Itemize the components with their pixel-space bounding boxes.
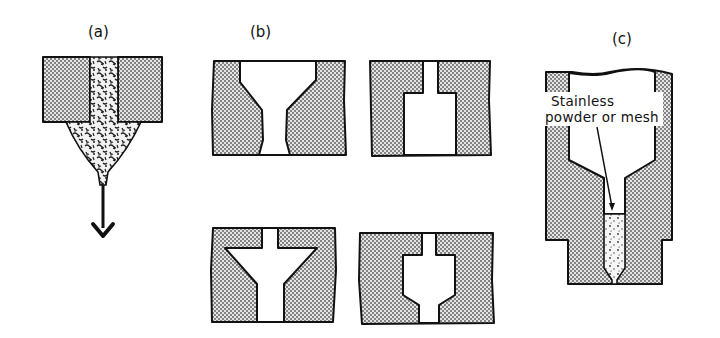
panel-b-label: (b) (250, 23, 271, 41)
panel-c-filter-insert (604, 214, 625, 284)
panel-a-left-wall (43, 57, 90, 122)
panel-b-nozzle-stepped-taper (359, 233, 494, 324)
annotation-line-2: powder or mesh (545, 109, 659, 125)
nozzle-diagram: (a) (b) (c) (0, 0, 720, 338)
panel-b-nozzle-converging (212, 61, 346, 155)
panel-a: (a) (43, 23, 162, 236)
panel-a-label: (a) (88, 23, 109, 41)
panel-b-nozzle-stepped (370, 61, 491, 156)
panel-b: (b) (211, 23, 494, 324)
panel-b-nozzle-funnel (211, 228, 336, 322)
annotation-line-1: Stainless (551, 93, 614, 109)
panel-c-label: (c) (612, 30, 632, 48)
panel-c: (c) Stainless powder or mesh (545, 30, 672, 284)
panel-a-right-wall (118, 57, 162, 122)
